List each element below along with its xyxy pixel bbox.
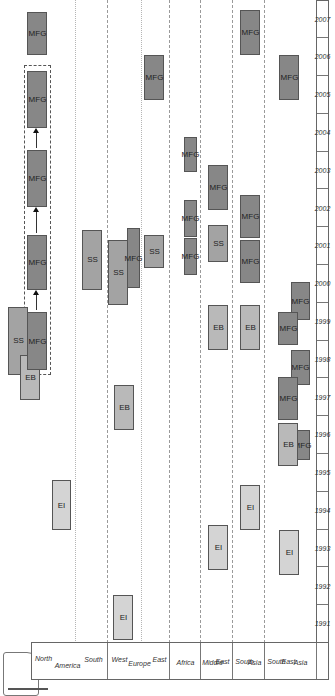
activity-box-mfg: MFG: [144, 55, 164, 100]
activity-box-label: EI: [58, 501, 66, 510]
activity-box-mfg: MFG: [27, 150, 47, 207]
activity-box-label: SS: [87, 256, 98, 265]
region-label: America: [55, 662, 81, 669]
activity-box-ei: EI: [240, 485, 260, 530]
activity-box-label: EB: [119, 403, 130, 412]
activity-box-label: MFG: [280, 73, 298, 82]
year-cell: 2003: [317, 151, 328, 189]
activity-box-mfg: MFG: [184, 137, 197, 172]
year-label: 2002: [315, 204, 331, 211]
activity-box-mfg: MFG: [240, 240, 260, 283]
year-cell: 2007: [317, 0, 328, 37]
year-label: 1991: [315, 620, 331, 627]
year-cell: 1996: [317, 415, 328, 453]
year-cell: 2006: [317, 37, 328, 75]
progression-arrow-icon: [36, 132, 37, 148]
activity-box-mfg: MFG: [208, 165, 228, 210]
activity-box-eb: EB: [208, 305, 228, 350]
region-label: Asia: [294, 659, 308, 666]
year-cell: 1999: [317, 302, 328, 340]
activity-box-ss: SS: [208, 225, 228, 262]
year-cell: 1995: [317, 453, 328, 491]
activity-box-mfg: MFG: [240, 195, 260, 238]
activity-box-label: EB: [25, 373, 36, 382]
activity-box-label: MFG: [241, 212, 259, 221]
activity-box-label: MFG: [145, 73, 163, 82]
activity-box-label: SS: [113, 268, 124, 277]
year-cell: 2005: [317, 75, 328, 113]
year-label: 2000: [315, 280, 331, 287]
activity-box-label: MFG: [125, 254, 143, 263]
activity-box-ss: SS: [144, 235, 164, 268]
year-label: 2001: [315, 242, 331, 249]
activity-box-mfg: MFG: [240, 10, 260, 55]
region-label: East: [152, 656, 166, 663]
year-label: 1995: [315, 469, 331, 476]
region-middle-east: Middle East: [201, 643, 233, 679]
activity-box-label: MFG: [292, 363, 310, 372]
activity-box-label: EI: [214, 543, 222, 552]
activity-box-label: MFG: [241, 28, 259, 37]
region-south-asia: South Asia: [233, 643, 265, 679]
label-corner-cell: [317, 643, 330, 679]
divider-north-south-america: [75, 0, 76, 643]
activity-box-ei: EI: [52, 480, 71, 530]
divider-west-east-europe: [141, 0, 142, 643]
activity-box-label: EB: [213, 323, 224, 332]
activity-box-mfg: MFG: [27, 312, 47, 370]
year-axis: 1991199219931994199519961997199819992000…: [316, 0, 329, 643]
activity-box-label: MFG: [182, 252, 200, 261]
year-label: 2006: [315, 53, 331, 60]
activity-box-mfg: MFG: [279, 55, 299, 100]
activity-box-eb: EB: [240, 305, 260, 350]
region-label: North: [35, 655, 52, 662]
activity-box-mfg: MFG: [184, 200, 197, 237]
activity-box-label: MFG: [279, 394, 297, 403]
activity-box-label: EB: [283, 440, 294, 449]
activity-box-label: MFG: [292, 297, 310, 306]
activity-box-mfg: MFG: [127, 228, 140, 288]
year-cell: 1998: [317, 340, 328, 378]
activity-box-label: MFG: [28, 258, 46, 267]
year-cell: 1992: [317, 566, 328, 604]
year-label: 2004: [315, 129, 331, 136]
year-cell: 1991: [317, 604, 328, 642]
activity-box-label: MFG: [28, 95, 46, 104]
activity-box-label: EB: [245, 323, 256, 332]
legend-item-mfg: [32, 688, 48, 690]
activity-box-label: MFG: [28, 337, 46, 346]
year-label: 2005: [315, 91, 331, 98]
year-label: 1997: [315, 393, 331, 400]
year-label: 1999: [315, 318, 331, 325]
activity-box-eb: EB: [114, 385, 134, 430]
year-label: 1993: [315, 545, 331, 552]
year-label: 1994: [315, 507, 331, 514]
divider-america-europe: [107, 0, 108, 643]
activity-box-label: MFG: [241, 257, 259, 266]
progression-arrow-icon: [36, 294, 37, 310]
year-label: 1992: [315, 582, 331, 589]
divider-middle-east-south-asia: [232, 0, 233, 643]
activity-box-mfg: MFG: [27, 235, 47, 290]
year-cell: 2004: [317, 113, 328, 151]
year-label: 2007: [315, 15, 331, 22]
activity-box-eb: EB: [278, 423, 298, 466]
year-cell: 2000: [317, 264, 328, 302]
activity-box-label: MFG: [279, 324, 297, 333]
activity-box-label: MFG: [28, 174, 46, 183]
region-label: South: [84, 656, 102, 663]
activity-box-mfg: MFG: [27, 12, 47, 55]
year-cell: 1997: [317, 377, 328, 415]
activity-box-label: EI: [285, 548, 293, 557]
divider-south-asia-south-east-asia: [264, 0, 265, 643]
activity-box-label: EI: [246, 503, 254, 512]
region-label: Asia: [248, 659, 262, 666]
region-label-column: North America South West Europe East Afr…: [31, 642, 329, 680]
activity-box-ss: SS: [82, 230, 102, 290]
year-cell: 2002: [317, 188, 328, 226]
region-south-east-asia: South East Asia: [265, 643, 317, 679]
year-cell: 2001: [317, 226, 328, 264]
activity-box-ei: EI: [113, 595, 133, 640]
region-label: Africa: [177, 659, 195, 666]
